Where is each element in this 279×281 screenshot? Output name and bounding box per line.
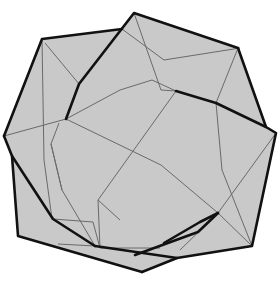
polyhedron-face-fill xyxy=(4,13,276,272)
polyhedron-figure xyxy=(0,0,279,281)
polyhedron-drawing xyxy=(0,0,279,281)
